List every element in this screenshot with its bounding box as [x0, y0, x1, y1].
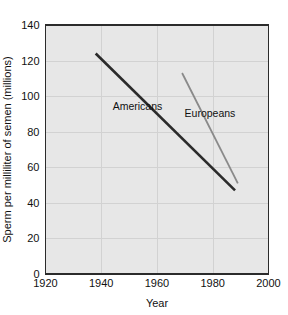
series-label-europeans: Europeans	[185, 107, 236, 119]
y-tick-label-120: 120	[21, 55, 39, 67]
y-tick-label-80: 80	[27, 126, 39, 138]
series-label-americans: Americans	[113, 100, 163, 112]
chart-figure: 020406080100120140 19201940196019802000 …	[0, 0, 288, 315]
y-axis-title: Sperm per milliliter of semen (millions)	[1, 56, 13, 242]
y-tick-label-140: 140	[21, 19, 39, 31]
line-chart-canvas: 020406080100120140 19201940196019802000 …	[0, 0, 288, 315]
x-tick-label-2000: 2000	[256, 277, 280, 289]
x-axis-title: Year	[146, 297, 169, 309]
x-tick-label-1960: 1960	[145, 277, 169, 289]
x-tick-label-1920: 1920	[33, 277, 57, 289]
y-tick-label-40: 40	[27, 197, 39, 209]
x-tick-label-1940: 1940	[89, 277, 113, 289]
y-tick-label-100: 100	[21, 90, 39, 102]
x-tick-label-1980: 1980	[201, 277, 225, 289]
y-tick-label-60: 60	[27, 161, 39, 173]
y-tick-label-20: 20	[27, 232, 39, 244]
